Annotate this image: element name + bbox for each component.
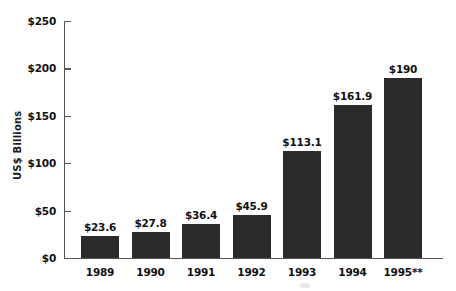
bar [81, 236, 119, 258]
bar [233, 215, 271, 259]
bar-value-label: $190 [373, 63, 433, 75]
bar-value-label: $113.1 [272, 136, 332, 148]
bar [283, 151, 321, 258]
plot-area: $0$50$100$150$200$250 $23.6$27.8$36.4$45… [64, 21, 443, 258]
y-axis-tick [65, 21, 71, 22]
bar-value-label: $45.9 [222, 200, 282, 212]
y-axis-tick-label: $0 [10, 252, 56, 264]
bar [384, 78, 422, 258]
x-axis-tick-label: 1995** [373, 266, 433, 278]
y-axis-tick [65, 116, 71, 117]
y-axis-tick [65, 68, 71, 69]
bar [334, 105, 372, 259]
y-axis-tick-label: $100 [10, 157, 56, 169]
y-axis-tick-label: $250 [10, 15, 56, 27]
y-axis-tick [65, 258, 71, 259]
y-axis-tick [65, 211, 71, 212]
y-axis-tick-label: $200 [10, 62, 56, 74]
scan-artifact [300, 283, 310, 288]
bar [132, 232, 170, 258]
bar-chart: US$ Billions $0$50$100$150$200$250 $23.6… [0, 0, 456, 291]
bar-value-label: $161.9 [323, 90, 383, 102]
y-axis-tick-label: $50 [10, 205, 56, 217]
y-axis-tick-label: $150 [10, 110, 56, 122]
x-axis-line [64, 258, 443, 259]
bar [182, 224, 220, 259]
y-axis-tick [65, 163, 71, 164]
y-axis-line [64, 21, 65, 258]
